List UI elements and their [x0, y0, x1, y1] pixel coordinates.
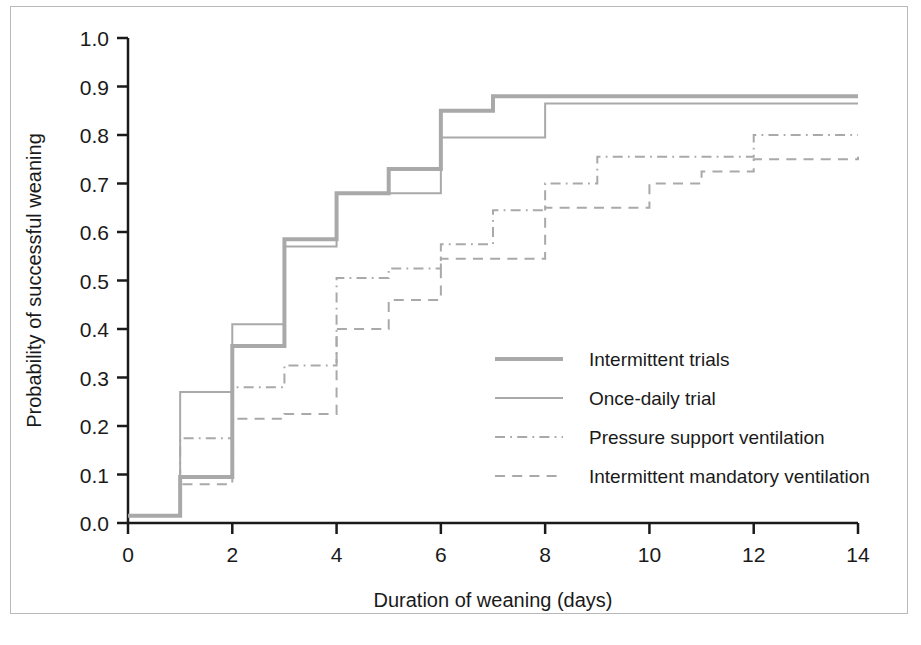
y-tick-label: 0.6	[80, 221, 109, 244]
kaplan-meier-step-chart: 0.00.10.20.30.40.50.60.70.80.91.0 024681…	[11, 7, 907, 613]
x-tick-label: 0	[122, 543, 134, 566]
legend-label-1: Once-daily trial	[589, 388, 716, 409]
x-axis-title: Duration of weaning (days)	[373, 589, 612, 611]
series-lines	[128, 96, 858, 516]
y-tick-label: 0.1	[80, 464, 109, 487]
y-tick-label: 0.5	[80, 270, 109, 293]
series-line-1	[128, 103, 858, 515]
y-tick-label: 0.2	[80, 415, 109, 438]
series-line-0	[128, 96, 858, 516]
legend-label-0: Intermittent trials	[589, 349, 729, 370]
chart-legend: Intermittent trialsOnce-daily trialPress…	[495, 349, 870, 487]
x-axis-ticks: 02468101214	[122, 523, 870, 566]
y-tick-label: 0.4	[80, 318, 110, 341]
x-tick-label: 4	[331, 543, 343, 566]
y-axis-ticks: 0.00.10.20.30.40.50.60.70.80.91.0	[80, 27, 128, 535]
y-axis-title: Probability of successful weaning	[23, 133, 45, 428]
y-tick-label: 0.7	[80, 173, 109, 196]
y-tick-label: 0.0	[80, 512, 109, 535]
x-tick-label: 6	[435, 543, 447, 566]
x-tick-label: 12	[742, 543, 765, 566]
legend-label-2: Pressure support ventilation	[589, 427, 825, 448]
figure-frame: 0.00.10.20.30.40.50.60.70.80.91.0 024681…	[10, 6, 908, 614]
y-tick-label: 1.0	[80, 27, 109, 50]
x-tick-label: 10	[638, 543, 661, 566]
x-tick-label: 8	[539, 543, 551, 566]
legend-label-3: Intermittent mandatory ventilation	[589, 466, 870, 487]
x-tick-label: 2	[226, 543, 238, 566]
y-tick-label: 0.8	[80, 124, 109, 147]
y-tick-label: 0.9	[80, 76, 109, 99]
y-tick-label: 0.3	[80, 367, 109, 390]
figure-page: 0.00.10.20.30.40.50.60.70.80.91.0 024681…	[0, 0, 921, 645]
series-line-2	[128, 135, 858, 516]
x-tick-label: 14	[846, 543, 870, 566]
